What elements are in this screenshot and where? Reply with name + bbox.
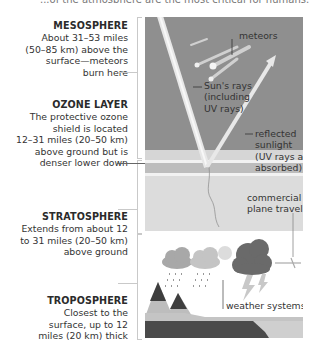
troposphere-desc-line: Closest to the [0, 307, 128, 319]
reflected-label-line: absorbed) [255, 162, 303, 173]
stratosphere-desc-line: to 31 miles (20–50 km) [0, 235, 128, 247]
plane-label-line: commercial [247, 192, 303, 203]
stratosphere-bracket [137, 160, 142, 234]
stratosphere-desc-line: above ground [0, 246, 128, 258]
weather-systems-label: weather systems [226, 300, 303, 311]
troposphere-tick [118, 283, 137, 284]
ozone-desc-line: above ground but is [0, 146, 128, 158]
meteors-label: meteors [239, 30, 278, 41]
ozone-desc-line: 12–31 miles (20–50 km) [0, 134, 128, 146]
plane-label-line: plane travel [247, 203, 303, 214]
stratosphere-title: STRATOSPHERE [0, 211, 128, 223]
stratosphere-desc-line: Extends from about 12 [0, 223, 128, 235]
plane-travel-label: commercial plane travel [247, 192, 303, 215]
mesosphere-desc-line: burn here [0, 67, 128, 79]
stratosphere-tick [118, 209, 137, 210]
ozone-desc-line: The protective ozone [0, 111, 128, 123]
troposphere-title: TROPOSPHERE [0, 295, 128, 307]
mesosphere-desc-line: surface—meteors [0, 55, 128, 67]
cut-off-header-text: ...of the atmosphere are the most critic… [40, 0, 310, 3]
suns-rays-label-line: (including [204, 91, 252, 102]
ozone-desc-line: denser lower down [0, 157, 128, 169]
ozone-label: OZONE LAYER The protective ozone shield … [0, 99, 128, 169]
troposphere-label: TROPOSPHERE Closest to the surface, up t… [0, 295, 128, 342]
mesosphere-desc-line: (50–85 km) above the [0, 44, 128, 56]
mesosphere-title: MESOSPHERE [0, 20, 128, 32]
mesosphere-tick [118, 72, 137, 73]
ozone-title: OZONE LAYER [0, 99, 128, 111]
mesosphere-desc-line: About 31–53 miles [0, 32, 128, 44]
suns-rays-label-line: Sun's rays [204, 80, 252, 91]
reflected-label-line: (UV rays are [255, 151, 303, 162]
mesosphere-label: MESOSPHERE About 31–53 miles (50–85 km) … [0, 20, 128, 78]
troposphere-bracket [137, 234, 142, 340]
troposphere-desc-line: miles (20 km) thick [0, 330, 128, 342]
atmosphere-illustration [145, 17, 303, 338]
ozone-bracket [137, 150, 142, 159]
mesosphere-bracket [137, 17, 142, 159]
ozone-desc-line: shield is located [0, 123, 128, 135]
atmosphere-diagram: meteors Sun's rays (including UV rays) r… [145, 17, 303, 338]
troposphere-desc-line: surface, up to 12 [0, 319, 128, 331]
reflected-label-line: reflected [255, 128, 303, 139]
reflected-label-line: sunlight [255, 139, 303, 150]
suns-rays-label: Sun's rays (including UV rays) [204, 80, 252, 114]
ground [145, 321, 269, 338]
stratosphere-label: STRATOSPHERE Extends from about 12 to 31… [0, 211, 128, 258]
suns-rays-label-line: UV rays) [204, 103, 252, 114]
reflected-sunlight-label: reflected sunlight (UV rays are absorbed… [255, 128, 303, 174]
